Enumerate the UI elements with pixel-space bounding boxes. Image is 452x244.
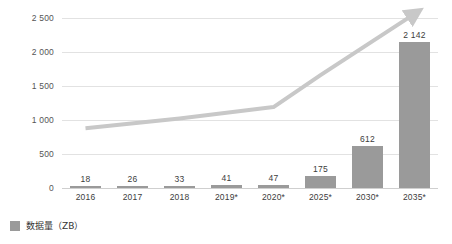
bar [352,146,383,188]
y-axis-tick-label: 2 500 [4,14,54,23]
y-axis-tick-label: 1 000 [4,116,54,125]
y-axis-tick-label: 500 [4,150,54,159]
bar [258,185,289,188]
bar [305,176,336,188]
bar [117,186,148,189]
bar-value-label: 47 [244,173,304,183]
bar [164,186,195,189]
bar [211,185,242,188]
bar-value-label: 612 [338,134,398,144]
chart-legend: 数据量（ZB） [10,219,83,232]
bar-value-label: 175 [291,164,351,174]
chart-container: 05001 0001 5002 0002 500 182633414717561… [0,0,452,244]
legend-item-label: 数据量（ZB） [26,219,83,232]
y-axis-tick-label: 2 000 [4,48,54,57]
bar-value-label: 2 142 [385,30,445,40]
bar [399,42,430,188]
y-axis-tick-label: 1 500 [4,82,54,91]
legend-swatch-icon [10,221,20,231]
y-axis-tick-label: 0 [4,184,54,193]
bar [70,186,101,189]
x-axis-tick-labels: 2016201720182019*2020*2025*2030*2035* [62,192,438,206]
bar-series: 18263341471756122 142 [62,18,438,188]
gridline [62,188,438,189]
x-axis-tick-label: 2035* [385,192,445,202]
